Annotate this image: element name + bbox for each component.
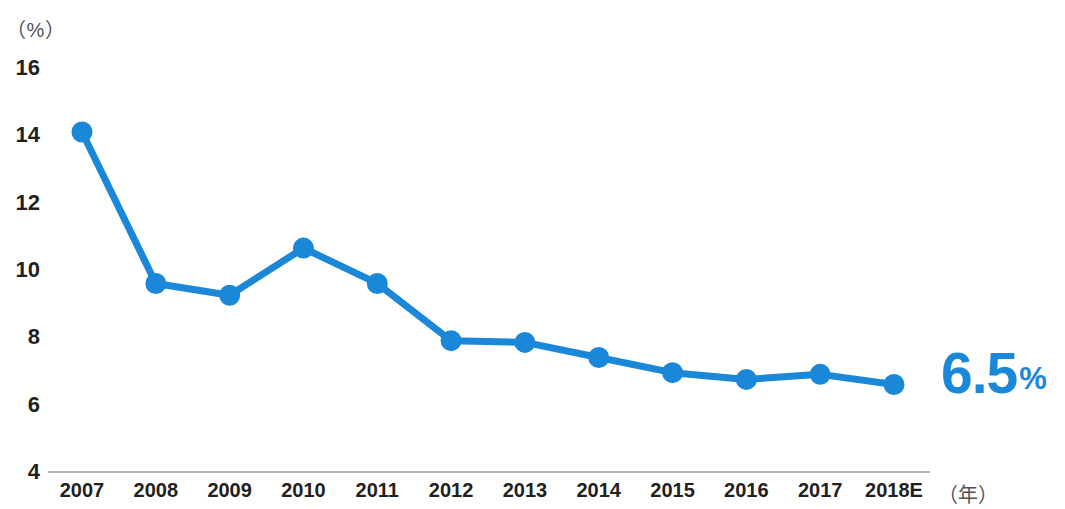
data-point-marker — [72, 121, 93, 142]
x-axis-tick-label: 2015 — [650, 479, 695, 502]
x-axis-tick-label: 2018E — [865, 479, 923, 502]
data-point-marker — [293, 238, 314, 259]
data-point-marker — [884, 374, 905, 395]
x-axis-tick-label: 2017 — [798, 479, 843, 502]
data-point-marker — [810, 364, 831, 385]
plot-area — [0, 0, 1065, 509]
data-point-marker — [514, 332, 535, 353]
x-axis-tick-label: 2014 — [576, 479, 621, 502]
x-axis-tick-label: 2008 — [134, 479, 179, 502]
callout-unit: % — [1019, 361, 1047, 396]
final-value-callout: 6.5% — [941, 345, 1047, 402]
x-axis-tick-label: 2011 — [356, 479, 399, 502]
data-point-marker — [662, 362, 683, 383]
data-marker-group — [72, 121, 905, 395]
data-point-marker — [367, 273, 388, 294]
x-axis-tick-label: 2010 — [281, 479, 326, 502]
data-point-marker — [219, 285, 240, 306]
x-axis-tick-label: 2013 — [503, 479, 548, 502]
callout-value: 6.5 — [941, 341, 1017, 405]
data-point-marker — [588, 347, 609, 368]
data-point-marker — [145, 273, 166, 294]
x-axis-caption: （年） — [938, 479, 998, 508]
x-axis-tick-label: 2009 — [207, 479, 252, 502]
x-axis-tick-label: 2007 — [60, 479, 105, 502]
data-point-marker — [736, 369, 757, 390]
x-axis-tick-label: 2012 — [429, 479, 474, 502]
data-point-marker — [441, 330, 462, 351]
line-chart: （%） 16141210864 200720082009201020112012… — [0, 0, 1065, 509]
data-line — [82, 132, 894, 385]
x-axis-tick-label: 2016 — [724, 479, 769, 502]
